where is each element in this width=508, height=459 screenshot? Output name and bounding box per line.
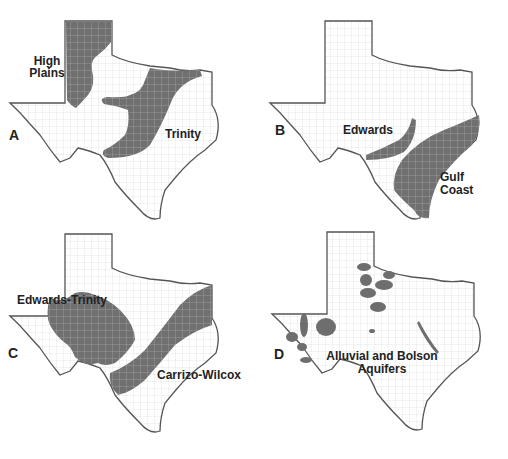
texas-map-high-plains-trinity xyxy=(0,0,254,230)
panel-b-map: B Edwards Gulf Coast xyxy=(254,0,508,230)
panel-letter-d: D xyxy=(274,346,284,362)
panel-c-map: C Edwards-Trinity Carrizo-Wilcox xyxy=(0,225,254,455)
texas-map-alluvial-bolson xyxy=(254,225,508,459)
label-edwards-trinity: Edwards-Trinity xyxy=(17,294,107,307)
panel-letter-b: B xyxy=(275,122,285,138)
panel-letter-c: C xyxy=(8,345,18,361)
label-aquifers: Aquifers xyxy=(322,363,442,376)
panel-d-map: D Alluvial and Bolson Aquifers xyxy=(254,225,508,455)
panel-a-map: A High Plains Trinity xyxy=(0,0,254,230)
label-coast: Coast xyxy=(440,184,473,197)
label-trinity: Trinity xyxy=(165,128,201,141)
label-edwards: Edwards xyxy=(343,124,393,137)
label-carrizo-wilcox: Carrizo-Wilcox xyxy=(157,369,241,382)
panel-letter-a: A xyxy=(9,127,19,143)
texas-map-edwards-trinity-carrizo-wilcox xyxy=(0,225,254,459)
label-plains: Plains xyxy=(22,67,72,80)
